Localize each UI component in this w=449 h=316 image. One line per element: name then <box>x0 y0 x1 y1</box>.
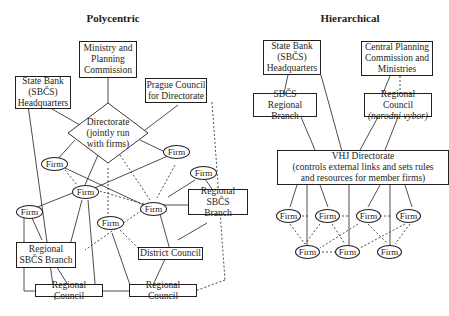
vhj-directorate-box: VHJ Directorate (controls external links… <box>277 150 449 185</box>
ministry-box: Ministry and Planning Commission <box>79 41 137 78</box>
firm-node: Firm <box>190 166 217 180</box>
firm-node: Firm <box>41 157 68 171</box>
regional-sbcs-branch-left: Regional SBČS Branch <box>16 242 76 268</box>
regional-council-box-2: Regional Council <box>129 284 197 297</box>
firm-node: Firm <box>335 245 360 259</box>
firm-node: Firm <box>377 245 402 259</box>
state-bank-box: State Bank (SBČS) Headquarters <box>15 76 71 109</box>
prague-council-box: Prague Council for Directorate <box>145 78 207 103</box>
central-planning-box: Central Planning Commission and Ministri… <box>361 41 433 76</box>
directorate-label: Directorate (jointly run with firms) <box>78 117 138 150</box>
diagram-canvas: Polycentric Ministry and Planning Commis… <box>0 0 449 316</box>
firm-node: Firm <box>140 202 167 216</box>
firm-node: Firm <box>356 209 381 223</box>
firm-node: Firm <box>97 216 124 230</box>
sbcs-regional-branch-box: SBČS Regional Branch <box>253 93 317 117</box>
hierarchical-title: Hierarchical <box>295 12 405 24</box>
firm-node: Firm <box>315 209 340 223</box>
district-council-box: District Council <box>138 247 203 260</box>
regional-council-hier-box: Regional Council (narodni vybor) <box>364 93 432 117</box>
polycentric-title: Polycentric <box>58 12 168 24</box>
firm-node: Firm <box>16 205 43 219</box>
regional-sbcs-branch-right: Regional SBČS Branch <box>188 189 248 215</box>
firm-node: Firm <box>396 209 421 223</box>
hier-state-bank-box: State Bank (SBČS) Headquarters <box>263 40 321 75</box>
firm-node: Firm <box>276 209 301 223</box>
firm-node: Firm <box>295 245 320 259</box>
regional-council-label: Regional Council <box>365 89 431 111</box>
firm-node: Firm <box>72 185 99 199</box>
firm-node: Firm <box>163 145 190 159</box>
narodni-vybor-label: (narodni vybor) <box>368 111 428 122</box>
regional-council-box-1: Regional Council <box>35 284 103 297</box>
